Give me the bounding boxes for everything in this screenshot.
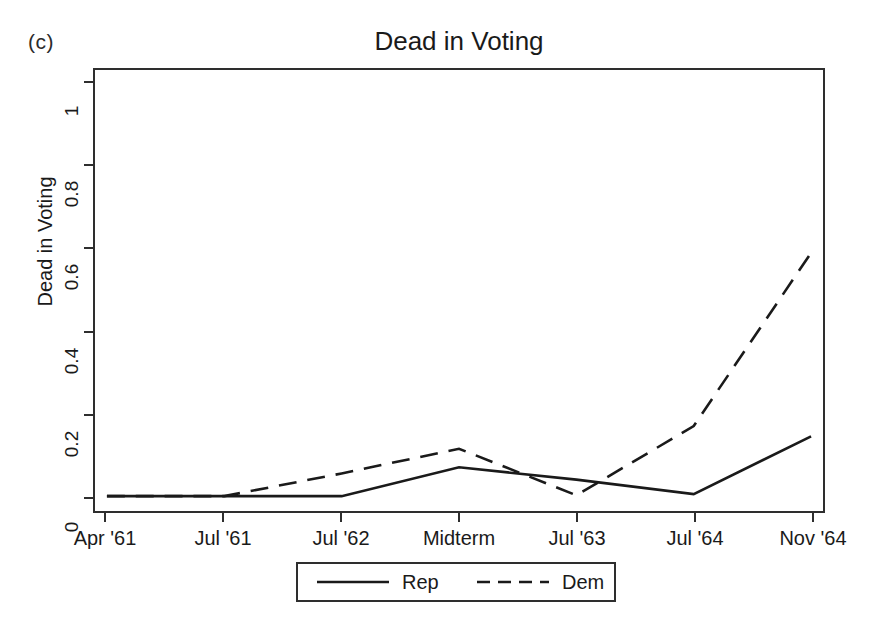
legend-entry-rep: Rep [316,564,439,600]
plot-lines [95,70,823,511]
y-tick-label: 0.4 [61,331,83,391]
y-axis-title: Dead in Voting [34,142,57,342]
x-tick-label: Nov '64 [779,527,846,550]
y-tick-label: 0.2 [61,414,83,474]
y-tick-label: 1 [61,81,83,141]
x-tick-label: Jul '62 [312,527,369,550]
x-tick-label: Apr '61 [74,527,137,550]
series-line-rep [107,436,811,496]
x-tick-label: Jul '64 [666,527,723,550]
legend-label: Dem [562,571,604,594]
y-tick-mark [84,81,93,83]
x-tick-mark [694,513,696,522]
y-tick-label: 0.8 [61,164,83,224]
legend: RepDem [296,562,616,602]
x-tick-label: Jul '61 [194,527,251,550]
legend-swatch-solid-icon [316,573,390,591]
x-tick-mark [576,513,578,522]
x-tick-mark [812,513,814,522]
y-tick-mark [84,164,93,166]
chart-figure: (c) Dead in Voting Dead in Voting 00.20.… [0,0,875,637]
series-line-dem [107,253,811,496]
y-tick-mark [84,247,93,249]
x-tick-mark [222,513,224,522]
x-tick-label: Midterm [423,527,495,550]
y-tick-mark [84,497,93,499]
chart-title: Dead in Voting [93,26,825,57]
legend-label: Rep [402,571,439,594]
panel-label: (c) [28,30,54,54]
y-tick-label: 0.6 [61,247,83,307]
x-tick-label: Jul '63 [548,527,605,550]
x-tick-mark [340,513,342,522]
y-tick-mark [84,414,93,416]
x-tick-mark [458,513,460,522]
y-tick-mark [84,331,93,333]
x-tick-mark [104,513,106,522]
legend-entry-dem: Dem [476,564,604,600]
legend-swatch-dashed-icon [476,573,550,591]
plot-area [93,68,825,513]
